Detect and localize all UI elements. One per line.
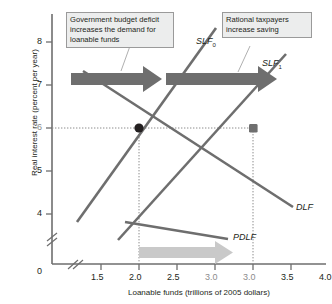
callout-saving: Rational taxpayers increase saving [222, 12, 312, 38]
x-tick-3-0: 3.0 [243, 272, 256, 282]
x-axis-ticks [101, 264, 291, 270]
demand-shift-arrow [71, 66, 162, 92]
y-tick-0: 0 [37, 266, 42, 276]
curve-slf0 [77, 28, 216, 222]
curve-label-pdlf: PDLF [233, 232, 256, 242]
initial-equilibrium-point [134, 123, 143, 132]
x-tick-2-0: 2.0 [129, 272, 142, 282]
x-tick-2-5: 2.5 [167, 272, 180, 282]
chart-figure: 8 7 6 5 4 0 1.5 2.0 2.5 3.0 3.0 3.5 4.0 … [0, 0, 332, 304]
y-tick-4: 4 [37, 208, 42, 218]
callout-deficit-leader [121, 46, 130, 71]
quantity-increase-arrow [139, 241, 233, 264]
x-axis-title: Loanable funds (trillions of 2005 dollar… [128, 288, 270, 297]
curve-dlf [83, 71, 293, 207]
y-axis-ticks [46, 42, 52, 214]
x-tick-1-5: 1.5 [91, 272, 104, 282]
callout-deficit: Government budget deficit increases the … [66, 12, 174, 48]
x-tick-4-0: 4.0 [319, 272, 332, 282]
new-equilibrium-point [249, 124, 258, 133]
x-tick-3-5: 3.5 [281, 272, 294, 282]
curve-pdlf [125, 222, 228, 239]
y-axis-title: Real interest rate (percent per year) [30, 33, 39, 193]
curve-label-dlf: DLF [296, 202, 313, 212]
supply-shift-arrow [166, 66, 277, 92]
curve-label-slf0: SLF0 [196, 36, 216, 48]
callout-saving-leader [238, 46, 250, 72]
curve-label-slf1: SLF1 [262, 58, 282, 70]
x-tick-3-0-pos: 3.0 [205, 272, 218, 282]
